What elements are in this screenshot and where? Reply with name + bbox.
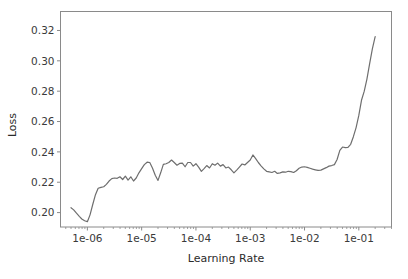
x-tick-label: 1e-06	[72, 232, 103, 244]
x-tick-label: 1e-03	[235, 232, 265, 244]
x-axis-title: Learning Rate	[188, 252, 265, 265]
y-tick-label: 0.30	[31, 55, 54, 67]
y-tick-label: 0.24	[31, 146, 55, 158]
x-tick-label: 1e-04	[181, 232, 212, 244]
y-tick-label: 0.28	[31, 85, 54, 97]
y-tick-label: 0.26	[31, 115, 55, 127]
x-tick-label: 1e-02	[289, 232, 319, 244]
chart-canvas: 0.200.220.240.260.280.300.32 1e-061e-051…	[0, 0, 408, 279]
y-axis-title: Loss	[6, 113, 19, 137]
matplotlib-figure: 0.200.220.240.260.280.300.32 1e-061e-051…	[0, 0, 408, 279]
axes-frame	[61, 12, 392, 228]
axes-area: 0.200.220.240.260.280.300.32 1e-061e-051…	[31, 12, 391, 245]
x-tick-label: 1e-01	[344, 232, 374, 244]
y-tick-label: 0.20	[31, 206, 54, 218]
x-tick-label: 1e-05	[127, 232, 157, 244]
y-tick-label: 0.32	[31, 24, 54, 36]
y-tick-label: 0.22	[31, 176, 54, 188]
